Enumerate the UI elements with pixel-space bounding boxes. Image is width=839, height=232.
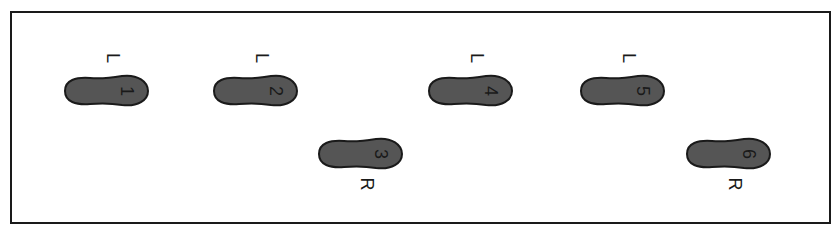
step-number: 2 bbox=[267, 83, 285, 99]
step-side-label: R bbox=[726, 176, 744, 192]
step-number: 6 bbox=[740, 146, 758, 162]
step-side-label: L bbox=[620, 50, 638, 66]
step-side-label: R bbox=[358, 176, 376, 192]
step-number: 4 bbox=[482, 83, 500, 99]
step-side-label: L bbox=[468, 50, 486, 66]
step-side-label: L bbox=[253, 50, 271, 66]
step-side-label: L bbox=[104, 50, 122, 66]
step-number: 1 bbox=[118, 83, 136, 99]
step-number: 3 bbox=[372, 146, 390, 162]
step-number: 5 bbox=[634, 83, 652, 99]
diagram-frame bbox=[10, 11, 831, 224]
